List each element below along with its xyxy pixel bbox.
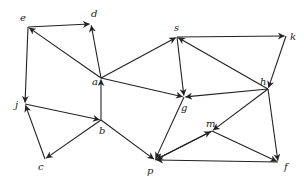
edge-h-to-g bbox=[185, 89, 268, 97]
node-label-p: p bbox=[147, 165, 154, 176]
edge-m-to-p bbox=[156, 131, 212, 159]
edge-e-to-j bbox=[25, 27, 28, 103]
edge-e-to-d bbox=[28, 24, 90, 27]
node-label-k: k bbox=[290, 31, 296, 42]
edge-k-to-h bbox=[268, 36, 286, 88]
node-label-d: d bbox=[91, 8, 97, 19]
edges bbox=[25, 24, 286, 162]
edge-a-to-e bbox=[29, 28, 101, 78]
edge-c-to-j bbox=[26, 105, 45, 159]
node-label-e: e bbox=[20, 12, 26, 23]
edge-g-to-p bbox=[156, 97, 184, 159]
edge-j-to-b bbox=[25, 104, 100, 120]
node-label-a: a bbox=[92, 76, 98, 87]
edge-m-to-f bbox=[212, 131, 277, 161]
edge-b-to-c bbox=[46, 120, 101, 158]
edge-b-to-p bbox=[101, 120, 154, 159]
edge-s-to-k bbox=[177, 36, 285, 37]
edge-s-to-g bbox=[177, 37, 184, 96]
edge-h-to-m bbox=[213, 89, 268, 130]
edge-a-to-s bbox=[101, 38, 176, 78]
node-label-b: b bbox=[99, 125, 105, 136]
directed-graph: edaskhgjbcmpf bbox=[0, 0, 304, 184]
node-label-c: c bbox=[38, 161, 44, 172]
node-label-j: j bbox=[13, 99, 18, 110]
edge-h-to-f bbox=[268, 89, 278, 161]
node-label-g: g bbox=[181, 102, 187, 113]
edge-f-to-p bbox=[156, 160, 278, 162]
node-label-h: h bbox=[260, 76, 266, 87]
node-label-f: f bbox=[283, 161, 290, 172]
edge-a-to-d bbox=[91, 25, 101, 78]
edge-a-to-g bbox=[101, 78, 183, 97]
node-label-s: s bbox=[174, 22, 179, 33]
edge-h-to-s bbox=[178, 38, 268, 89]
node-label-m: m bbox=[206, 118, 215, 129]
